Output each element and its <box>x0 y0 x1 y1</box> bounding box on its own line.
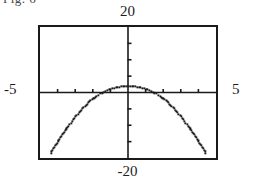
curve-pixel <box>193 133 195 135</box>
curve-pixel <box>118 86 120 88</box>
curve-pixel <box>167 101 169 103</box>
curve-pixel <box>129 85 131 87</box>
curve-pixel <box>116 86 118 88</box>
curve-pixel <box>204 152 206 154</box>
curve-pixel <box>186 123 188 125</box>
curve-pixel <box>106 89 108 91</box>
curve-pixel <box>111 87 113 89</box>
curve-pixel <box>89 99 91 101</box>
curve-pixel <box>58 138 60 140</box>
curve-pixel <box>176 111 178 113</box>
curve-pixel <box>170 105 172 107</box>
window-ymax-label: 20 <box>0 3 255 20</box>
curve-pixel <box>136 86 138 88</box>
curve-pixel <box>82 106 84 108</box>
curve-pixel <box>102 91 104 93</box>
curve-pixel <box>202 147 204 149</box>
curve-pixel <box>146 88 148 90</box>
curve-pixel <box>143 87 145 89</box>
curve-pixel <box>51 149 53 151</box>
curve-pixel <box>95 95 97 97</box>
curve-pixel <box>183 120 185 122</box>
curve-pixel <box>204 150 206 152</box>
curve-pixel <box>173 107 175 109</box>
curve-pixel <box>80 109 82 111</box>
curve-pixel <box>56 142 58 144</box>
curve-pixel <box>109 88 111 90</box>
curve-pixel <box>177 113 179 115</box>
calculator-viewport <box>38 25 218 160</box>
curve-pixel <box>195 136 197 138</box>
curve-pixel <box>63 131 65 133</box>
curve-pixel <box>99 92 101 94</box>
curve-pixel <box>97 94 99 96</box>
window-xmax-label: 5 <box>232 81 240 98</box>
curve-pixel <box>139 86 141 88</box>
curve-pixel <box>86 103 88 105</box>
curve-pixel <box>163 98 165 100</box>
curve-pixel <box>190 129 192 131</box>
curve-pixel <box>180 115 182 117</box>
curve-pixel <box>182 118 184 120</box>
window-ymin-label: -20 <box>0 163 255 180</box>
curve-pixel <box>148 89 150 91</box>
curve-pixel <box>197 140 199 142</box>
curve-pixel <box>127 85 129 87</box>
curve-pixel <box>68 123 70 125</box>
curve-pixel <box>184 122 186 124</box>
curve-pixel <box>75 114 77 116</box>
curve-pixel <box>200 144 202 146</box>
curve-pixel <box>73 117 75 119</box>
curve-pixel <box>134 85 136 87</box>
window-xmin-label: -5 <box>4 81 17 98</box>
curve-pixel <box>60 135 62 137</box>
curve-pixel <box>113 87 115 89</box>
curve-pixel <box>123 85 125 87</box>
curve-pixel <box>125 85 127 87</box>
curve-pixel <box>50 152 52 154</box>
graphing-calculator-figure: Fig. 6 20 -5 5 -20 <box>0 0 255 186</box>
curve-pixel <box>77 113 79 115</box>
curve-pixel <box>141 87 143 89</box>
plot-area <box>40 27 216 158</box>
axes-group <box>40 27 216 158</box>
curve-pixel <box>150 90 152 92</box>
curve-pixel <box>70 122 72 124</box>
curve-pixel <box>53 146 55 148</box>
curve-pixel <box>71 120 73 122</box>
curve-pixel <box>157 94 159 96</box>
curve-pixel <box>67 125 69 127</box>
curve-pixel <box>153 92 155 94</box>
curve-pixel <box>104 90 106 92</box>
curve-pixel <box>120 85 122 87</box>
curve-pixel <box>155 92 157 94</box>
curve-pixel <box>132 85 134 87</box>
